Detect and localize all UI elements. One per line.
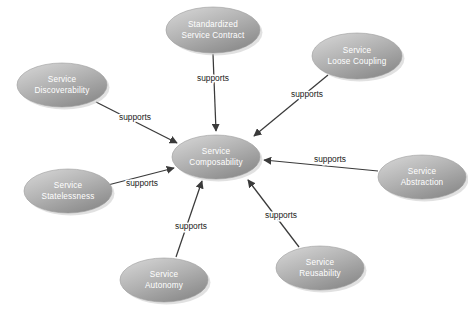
node-ellipse[interactable] xyxy=(378,155,466,199)
nodes-layer: StandardizedService ContractServiceLoose… xyxy=(17,7,468,305)
edge-label-supports: supports xyxy=(119,112,151,122)
node-label-line-1: Service xyxy=(408,167,437,176)
edge-service-loose-coupling xyxy=(254,75,328,136)
node-service-abstraction[interactable]: ServiceAbstraction xyxy=(378,155,468,202)
node-service-autonomy[interactable]: ServiceAutonomy xyxy=(120,258,211,305)
node-ellipse[interactable] xyxy=(17,63,107,107)
node-service-composability center-node[interactable]: ServiceComposability xyxy=(172,135,263,182)
node-ellipse[interactable] xyxy=(172,135,260,179)
edge-service-discoverability xyxy=(96,102,177,143)
node-ellipse[interactable] xyxy=(166,7,260,53)
node-service-reusability[interactable]: ServiceReusability xyxy=(276,246,367,293)
node-label-line-1: Service xyxy=(202,147,231,156)
node-standardized-service-contract[interactable]: StandardizedService Contract xyxy=(166,7,263,56)
edge-standardized-service-contract xyxy=(213,54,216,131)
service-composability-diagram: StandardizedService ContractServiceLoose… xyxy=(0,0,468,314)
node-ellipse[interactable] xyxy=(312,33,402,79)
edge-label-supports: supports xyxy=(175,221,207,231)
edge-line xyxy=(213,54,216,131)
node-label-line-1: Service xyxy=(306,258,335,267)
node-label-line-2: Service Contract xyxy=(182,31,245,40)
node-ellipse[interactable] xyxy=(24,169,112,213)
node-label-line-2: Discoverability xyxy=(34,86,90,95)
node-service-statelessness[interactable]: ServiceStatelessness xyxy=(24,169,115,216)
edge-label-supports: supports xyxy=(265,210,297,220)
node-label-line-1: Service xyxy=(54,181,83,190)
edge-line xyxy=(96,102,177,143)
node-label-line-2: Loose Coupling xyxy=(327,57,386,66)
edge-service-autonomy xyxy=(176,181,202,257)
node-label-line-2: Abstraction xyxy=(401,178,444,187)
edge-label-supports: supports xyxy=(314,154,346,164)
node-label-line-2: Composability xyxy=(189,158,243,167)
node-label-line-2: Reusability xyxy=(299,269,341,278)
node-label-line-2: Autonomy xyxy=(145,281,184,290)
edge-line xyxy=(254,75,328,136)
diagram-canvas-root: StandardizedService ContractServiceLoose… xyxy=(0,0,468,314)
edge-label-supports: supports xyxy=(126,178,158,188)
edge-line xyxy=(176,181,202,257)
node-service-loose-coupling[interactable]: ServiceLoose Coupling xyxy=(312,33,405,82)
node-label-line-2: Statelessness xyxy=(42,192,95,201)
node-service-discoverability[interactable]: ServiceDiscoverability xyxy=(17,63,110,110)
node-label-line-1: Service xyxy=(150,270,179,279)
node-label-line-1: Standardized xyxy=(188,20,238,29)
node-label-line-1: Service xyxy=(343,46,372,55)
node-label-line-1: Service xyxy=(48,75,77,84)
node-ellipse[interactable] xyxy=(120,258,208,302)
node-ellipse[interactable] xyxy=(276,246,364,290)
edge-label-supports: supports xyxy=(291,89,323,99)
edge-label-supports: supports xyxy=(197,73,229,83)
